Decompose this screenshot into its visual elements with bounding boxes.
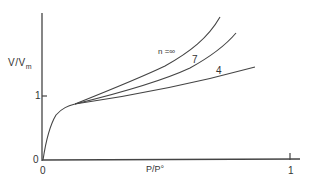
y-tick-label-0: 0 (33, 155, 39, 165)
curve-label-n-4: 4 (216, 66, 222, 76)
y-tick-label-1: 1 (35, 91, 41, 101)
y-axis-label: V/Vm (8, 58, 32, 70)
curve-label-n-7: 7 (192, 55, 198, 65)
curve-label-n-infinity: n =∞ (158, 48, 175, 56)
x-axis-label: P/P° (146, 165, 164, 174)
x-axis (42, 159, 300, 160)
x-tick-label-0: 0 (40, 166, 46, 176)
curve-n-7 (75, 33, 236, 104)
x-tick-label-1: 1 (288, 166, 294, 176)
chart-canvas (0, 0, 310, 185)
curve-n-4 (75, 67, 255, 104)
